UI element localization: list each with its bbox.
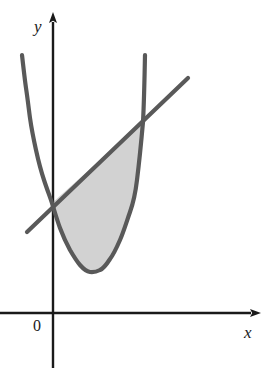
graph-figure: y x 0: [0, 0, 273, 368]
y-axis-label: y: [32, 17, 42, 36]
x-axis-label: x: [243, 323, 252, 342]
figure-container: y x 0: [0, 0, 273, 368]
origin-label: 0: [33, 317, 41, 334]
